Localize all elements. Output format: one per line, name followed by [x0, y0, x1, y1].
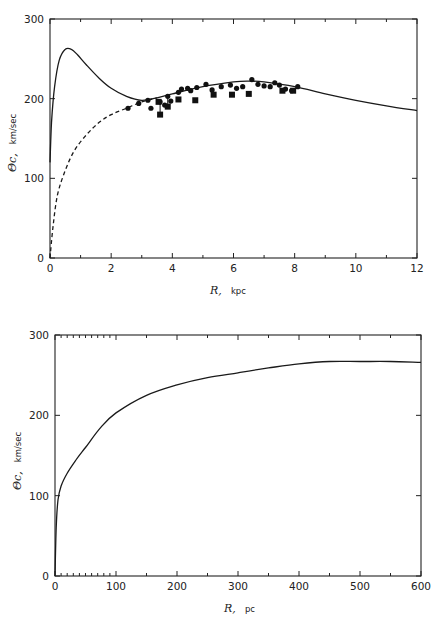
data-point-circle [234, 86, 239, 91]
data-point-square [246, 91, 252, 97]
data-point-circle [228, 83, 233, 88]
plot-border [50, 19, 417, 258]
data-point-square [211, 92, 217, 98]
x-axis-symbol: R, [209, 284, 222, 297]
x-tick-label: 500 [350, 580, 370, 592]
solid-curve [55, 361, 421, 576]
y-tick-label: 300 [29, 329, 49, 341]
data-point-circle [125, 106, 130, 111]
x-tick-label: 200 [167, 580, 187, 592]
data-point-circle [219, 84, 224, 89]
plot-border [55, 335, 421, 576]
y-tick-label: 0 [42, 570, 49, 582]
axis-ticks [55, 335, 421, 576]
x-axis-unit: pc [245, 604, 255, 614]
data-point-circle [249, 77, 254, 82]
y-tick-label: 100 [29, 490, 49, 502]
y-axis-unit: km/sec [13, 431, 23, 462]
chart-outer-rotation-curve: 024681012 0100200300 R, kpc Θc, km/sec [1, 13, 424, 298]
y-tick-label: 300 [24, 13, 44, 25]
x-tick-label: 4 [169, 262, 176, 274]
y-tick-label: 0 [37, 252, 44, 264]
x-tick-label: 0 [52, 580, 59, 592]
x-tick-label: 300 [228, 580, 248, 592]
data-point-circle [268, 84, 273, 89]
data-point-circle [240, 84, 245, 89]
x-tick-labels: 0100200300400500600 [52, 580, 431, 592]
data-point-square [156, 99, 162, 105]
x-tick-label: 8 [291, 262, 298, 274]
y-axis-unit: km/sec [8, 113, 18, 144]
x-axis-title: R, kpc [209, 279, 246, 298]
x-tick-label: 400 [289, 580, 309, 592]
x-tick-label: 600 [411, 580, 431, 592]
dashed-curve [50, 98, 157, 258]
x-tick-label: 12 [410, 262, 423, 274]
figure: 024681012 0100200300 R, kpc Θc, km/sec 0… [0, 0, 440, 620]
data-series [50, 48, 417, 258]
data-point-circle [145, 98, 150, 103]
y-axis-symbol: Θc, [6, 153, 19, 172]
x-tick-label: 100 [106, 580, 126, 592]
y-tick-labels: 0100200300 [29, 329, 49, 582]
data-point-square [290, 88, 296, 94]
y-tick-label: 100 [24, 172, 44, 184]
y-axis-title: Θc, km/sec [6, 431, 25, 490]
data-point-circle [136, 101, 141, 106]
plot-frame [55, 335, 421, 576]
x-tick-labels: 024681012 [47, 262, 424, 274]
x-tick-label: 6 [230, 262, 237, 274]
data-point-circle [188, 88, 193, 93]
data-point-square [175, 96, 181, 102]
data-point-circle [272, 80, 277, 85]
data-point-circle [148, 106, 153, 111]
data-series [55, 361, 421, 576]
data-point-circle [168, 98, 173, 103]
x-tick-label: 10 [349, 262, 362, 274]
y-tick-label: 200 [29, 409, 49, 421]
data-point-square [279, 88, 285, 94]
data-point-square [229, 92, 235, 98]
x-tick-label: 2 [108, 262, 115, 274]
axis-ticks [50, 19, 417, 258]
x-axis-symbol: R, [223, 602, 236, 615]
data-point-circle [255, 82, 260, 87]
x-axis-unit: kpc [231, 286, 246, 296]
data-point-circle [203, 82, 208, 87]
data-point-square [192, 97, 198, 103]
y-axis-symbol: Θc, [11, 471, 24, 490]
data-point-circle [277, 83, 282, 88]
y-axis-title: Θc, km/sec [1, 113, 20, 172]
chart-inner-rotation-curve: 0100200300400500600 0100200300 R, pc Θc,… [6, 329, 431, 616]
plot-frame [50, 19, 417, 258]
y-tick-label: 200 [24, 93, 44, 105]
x-axis-title: R, pc [223, 597, 255, 616]
x-tick-label: 0 [47, 262, 54, 274]
solid-curve [50, 48, 417, 162]
data-point-circle [261, 83, 266, 88]
y-tick-labels: 0100200300 [24, 13, 44, 264]
data-point-circle [194, 85, 199, 90]
data-point-circle [179, 87, 184, 92]
